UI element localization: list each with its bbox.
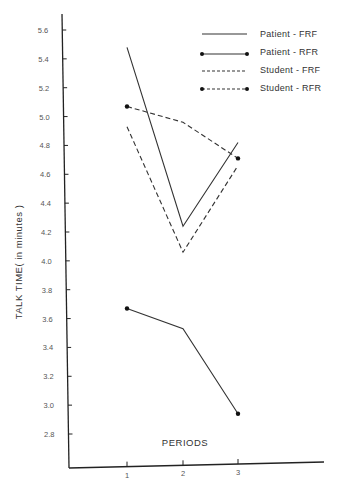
legend-marker bbox=[200, 87, 204, 91]
legend-marker bbox=[245, 87, 249, 91]
y-tick-label: 4.6 bbox=[40, 170, 50, 179]
y-tick-label: 3.0 bbox=[44, 401, 54, 410]
y-tick-label: 3.8 bbox=[42, 286, 52, 295]
legend-label: Student - RFR bbox=[260, 83, 322, 93]
y-tick-label: 5.0 bbox=[39, 113, 49, 122]
y-axis-title: TALK TIME( in minutes ) bbox=[13, 205, 24, 320]
data-point-marker bbox=[125, 104, 129, 108]
legend-label: Student - FRF bbox=[260, 65, 321, 75]
series-line-student-rfr bbox=[127, 107, 238, 159]
legend-label: Patient - FRF bbox=[260, 29, 318, 39]
series-line-patient-rfr bbox=[127, 309, 238, 414]
data-point-marker bbox=[236, 412, 240, 416]
y-tick-label: 4.4 bbox=[40, 199, 50, 208]
legend-marker bbox=[245, 52, 249, 56]
legend-marker bbox=[200, 52, 204, 56]
y-axis bbox=[62, 14, 69, 468]
legend-label: Patient - RFR bbox=[260, 47, 319, 57]
y-tick-label: 5.2 bbox=[39, 84, 49, 93]
series-line-student-frf bbox=[127, 127, 238, 253]
data-point-marker bbox=[236, 156, 240, 160]
legend: Patient - FRFPatient - RFRStudent - FRFS… bbox=[200, 29, 322, 93]
y-tick-label: 2.8 bbox=[44, 430, 54, 439]
x-tick-label: 2 bbox=[181, 469, 185, 478]
y-tick-label: 4.2 bbox=[41, 228, 51, 237]
x-tick-label: 1 bbox=[125, 471, 129, 480]
y-tick-label: 3.4 bbox=[43, 343, 53, 352]
x-ticks: 123 bbox=[125, 459, 240, 480]
y-tick-label: 4.8 bbox=[40, 141, 50, 150]
data-point-marker bbox=[125, 306, 129, 310]
y-tick-label: 3.2 bbox=[43, 372, 53, 381]
y-tick-label: 4.0 bbox=[41, 257, 51, 266]
line-chart: 5.65.45.25.04.84.64.44.24.03.83.63.43.23… bbox=[0, 0, 341, 488]
x-tick-label: 3 bbox=[236, 468, 240, 477]
x-axis-title: PERIODS bbox=[162, 437, 208, 448]
series-line-patient-frf bbox=[127, 47, 238, 226]
y-tick-label: 5.6 bbox=[38, 26, 48, 35]
x-axis bbox=[69, 462, 324, 468]
y-tick-label: 3.6 bbox=[42, 315, 52, 324]
y-tick-label: 5.4 bbox=[38, 55, 48, 64]
series-layer bbox=[125, 47, 240, 416]
